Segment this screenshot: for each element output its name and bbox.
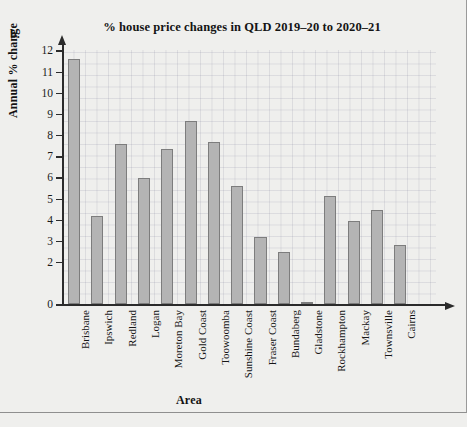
x-axis-line: [62, 304, 446, 306]
x-axis-category-text: Moreton Bay: [172, 310, 184, 368]
x-axis-category-text: Gladstone: [312, 310, 324, 355]
y-axis-tick-label: 11: [42, 66, 53, 78]
y-axis-tick-label: 8: [47, 129, 53, 141]
bar: [91, 216, 103, 305]
y-axis-tick-label: 3: [47, 235, 53, 247]
bar: [231, 186, 243, 305]
y-axis-tick: [56, 220, 62, 221]
x-axis-category-text: Gold Coast: [196, 310, 208, 360]
x-axis-label: Area: [176, 393, 202, 408]
plot-area: 023456789101112: [62, 50, 436, 306]
chart-panel: b. % house price changes in QLD 2019–20 …: [0, 0, 467, 413]
x-axis-category-text: Brisbane: [79, 310, 91, 349]
y-axis-tick: [56, 199, 62, 200]
bar: [301, 302, 313, 304]
y-axis-tick-label: 5: [47, 193, 53, 205]
y-axis-tick-label: 0: [47, 298, 53, 310]
bar: [161, 149, 173, 305]
y-axis-tick-label: 2: [47, 256, 53, 268]
x-axis-category-text: Townsville: [382, 310, 394, 359]
y-axis-tick: [56, 304, 62, 305]
bar: [324, 196, 336, 304]
y-axis-tick-label: 6: [47, 171, 53, 183]
x-axis-category-text: Rockhampton: [335, 310, 347, 372]
y-axis-tick: [56, 72, 62, 73]
bar: [208, 142, 220, 304]
x-axis-category-text: Redland: [126, 310, 138, 347]
x-axis-category-text: Cairns: [405, 310, 417, 339]
y-axis-tick: [56, 135, 62, 136]
bar: [348, 221, 360, 305]
y-axis-tick-label: 7: [47, 150, 53, 162]
x-axis-category-text: Mackay: [359, 310, 371, 345]
y-axis-line: [62, 42, 64, 306]
x-axis-category-text: Sunshine Coast: [242, 310, 254, 378]
y-axis-tick-label: 9: [47, 108, 53, 120]
bar: [394, 245, 406, 304]
y-axis-tick-label: 10: [42, 87, 54, 99]
bar: [371, 210, 383, 304]
y-axis-tick: [56, 262, 62, 263]
y-axis-tick: [56, 156, 62, 157]
bar: [254, 237, 266, 305]
bar: [138, 178, 150, 304]
x-axis-category-text: Bundaberg: [289, 310, 301, 358]
x-axis-category-text: Logan: [149, 310, 161, 338]
x-axis-category-text: Toowoomba: [219, 310, 231, 365]
y-axis-label: Annual % change: [6, 23, 21, 118]
chart-title: % house price changes in QLD 2019–20 to …: [62, 20, 422, 35]
x-axis-category-text: Ipswich: [102, 310, 114, 345]
y-axis-tick: [56, 177, 62, 178]
bar: [278, 252, 290, 305]
x-axis-category-text: Fraser Coast: [266, 310, 278, 365]
y-axis-tick: [56, 114, 62, 115]
x-axis-arrow-icon: [445, 302, 455, 310]
y-axis-tick: [56, 50, 62, 51]
bar: [185, 121, 197, 304]
y-axis-tick: [56, 241, 62, 242]
y-axis-tick-label: 12: [42, 44, 54, 56]
y-axis-tick: [56, 93, 62, 94]
bar: [115, 144, 127, 305]
y-axis-tick-label: 4: [47, 214, 53, 226]
y-axis-arrow-icon: [58, 35, 66, 45]
bar: [68, 59, 80, 305]
